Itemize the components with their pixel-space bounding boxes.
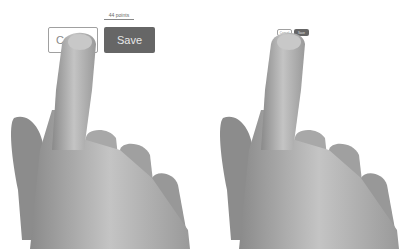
small-target-panel: Cancel Save — [205, 0, 405, 249]
large-target-panel: 44 points Cancel Save — [0, 0, 200, 249]
pointing-hand-image-2 — [205, 0, 405, 249]
pointing-hand-image — [0, 0, 200, 249]
